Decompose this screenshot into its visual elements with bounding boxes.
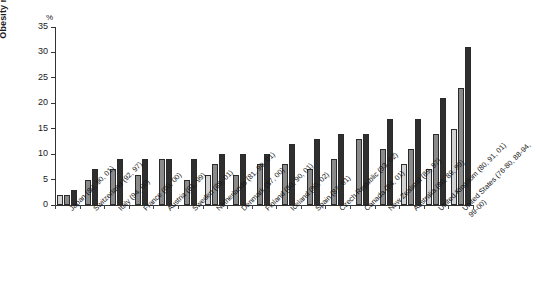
- y-tick-label: 5: [26, 174, 48, 184]
- bar-group: [55, 27, 80, 205]
- y-tick-label: 30: [26, 46, 48, 56]
- bar: [415, 119, 421, 205]
- bar: [363, 134, 369, 205]
- bar: [338, 134, 344, 205]
- y-tick-label: 15: [26, 123, 48, 133]
- y-axis-title: Obesity rate: [0, 0, 8, 72]
- y-tick-label: 20: [26, 97, 48, 107]
- x-axis-labels: Japan (80, 90, 01)Switzerland (92, 97)It…: [55, 207, 487, 300]
- y-tick-label: 10: [26, 148, 48, 158]
- y-tick-label: 25: [26, 72, 48, 82]
- bar: [314, 139, 320, 205]
- y-axis-title-text: Obesity rate: [0, 0, 8, 39]
- y-tick-label: 0: [26, 199, 48, 209]
- bar: [57, 195, 63, 205]
- y-tick-label: 35: [26, 21, 48, 31]
